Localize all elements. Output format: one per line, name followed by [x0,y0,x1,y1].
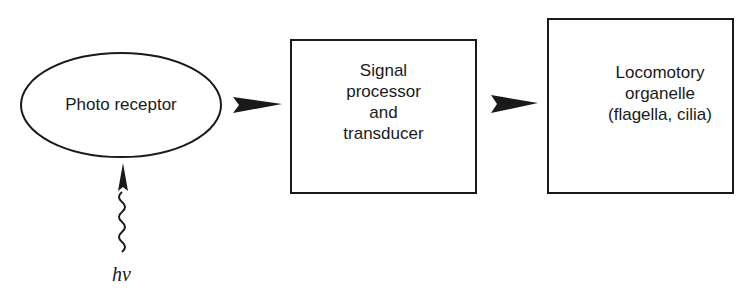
arrow-processor-to-organelle [491,95,538,113]
label-line: Signal [291,60,476,81]
label-line: Locomotory [570,62,750,83]
label-line: and [291,102,476,123]
light-arrowhead-icon [118,163,128,191]
signal-processor-label: Signal processor and transducer [291,60,476,144]
label-line: processor [291,81,476,102]
label-line: organelle [570,83,750,104]
diagram-canvas [0,0,752,300]
label-line: transducer [291,123,476,144]
light-wave-icon [119,192,125,252]
locomotory-organelle-label: Locomotory organelle (flagella, cilia) [570,62,750,125]
light-input-label: hν [112,263,131,286]
arrow-photoreceptor-to-processor [233,97,282,113]
label-line: (flagella, cilia) [570,104,750,125]
photoreceptor-label: Photo receptor [40,94,202,115]
